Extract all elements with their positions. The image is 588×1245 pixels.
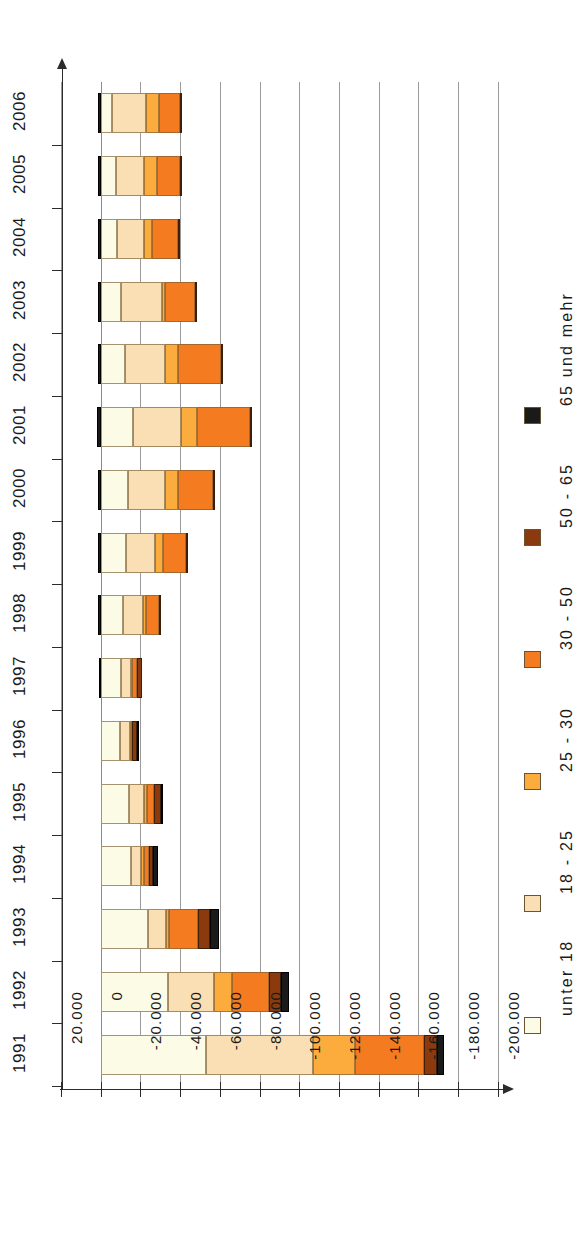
- bar-segment-2006-unter-18[interactable]: [101, 93, 112, 133]
- bar-segment-1993-65-und-mehr[interactable]: [210, 909, 219, 949]
- bar-segment-1995-50---65[interactable]: [154, 784, 161, 824]
- bar-segment-2000-unter-18[interactable]: [101, 470, 129, 510]
- bar-1995[interactable]: [0, 784, 588, 824]
- bar-segment-1999-25---30[interactable]: [155, 533, 163, 573]
- bar-1994[interactable]: [0, 846, 588, 886]
- bar-segment-2006-25---30[interactable]: [146, 93, 159, 133]
- bar-2003[interactable]: [0, 282, 588, 322]
- bar-segment-1999-18---25[interactable]: [126, 533, 156, 573]
- bar-segment-2002-30---50[interactable]: [178, 344, 221, 384]
- bar-segment-2004-18---25[interactable]: [117, 219, 145, 259]
- bar-1996[interactable]: [0, 721, 588, 761]
- bar-segment-2001-30---50[interactable]: [197, 407, 250, 447]
- bar-segment-2004-30---50[interactable]: [152, 219, 178, 259]
- bar-segment-2002-unter-18[interactable]: [101, 344, 125, 384]
- bar-segment-2000-30---50[interactable]: [178, 470, 213, 510]
- bar-segment-2003-65-und-mehr[interactable]: [98, 282, 101, 322]
- bar-1999[interactable]: [0, 533, 588, 573]
- bar-1991[interactable]: [0, 1035, 588, 1075]
- bar-segment-2000-25---30[interactable]: [165, 470, 178, 510]
- bar-segment-1997-18---25[interactable]: [121, 658, 132, 698]
- bar-2006[interactable]: [0, 93, 588, 133]
- bar-segment-2003-unter-18[interactable]: [101, 282, 121, 322]
- bar-segment-1994-18---25[interactable]: [131, 846, 141, 886]
- bar-segment-1997-65-und-mehr[interactable]: [99, 658, 101, 698]
- bar-segment-2006-50---65[interactable]: [180, 93, 182, 133]
- bar-segment-2006-65-und-mehr[interactable]: [98, 93, 101, 133]
- bar-2005[interactable]: [0, 156, 588, 196]
- bar-segment-1998-65-und-mehr[interactable]: [98, 595, 101, 635]
- bar-segment-2005-50---65[interactable]: [180, 156, 182, 196]
- bar-1998[interactable]: [0, 595, 588, 635]
- bar-segment-2004-unter-18[interactable]: [101, 219, 117, 259]
- bar-segment-2003-30---50[interactable]: [165, 282, 195, 322]
- bar-segment-1998-30---50[interactable]: [146, 595, 159, 635]
- bar-segment-1997-unter-18[interactable]: [101, 658, 121, 698]
- bar-2000[interactable]: [0, 470, 588, 510]
- bar-segment-2004-25---30[interactable]: [144, 219, 152, 259]
- bar-segment-2000-18---25[interactable]: [128, 470, 165, 510]
- bar-segment-1995-unter-18[interactable]: [101, 784, 130, 824]
- bar-segment-1994-unter-18[interactable]: [101, 846, 132, 886]
- bar-segment-2006-30---50[interactable]: [159, 93, 180, 133]
- bar-segment-2002-65-und-mehr[interactable]: [98, 344, 101, 384]
- bar-segment-2003-50---65[interactable]: [195, 282, 197, 322]
- bar-segment-2000-50---65[interactable]: [213, 470, 215, 510]
- bar-segment-1996-unter-18[interactable]: [101, 721, 120, 761]
- bar-segment-1993-18---25[interactable]: [148, 909, 166, 949]
- bar-segment-1999-30---50[interactable]: [163, 533, 186, 573]
- bar-segment-1991-18---25[interactable]: [206, 1035, 313, 1075]
- bar-segment-2001-18---25[interactable]: [133, 407, 181, 447]
- bar-segment-1995-30---50[interactable]: [147, 784, 154, 824]
- bar-segment-1997-50---65[interactable]: [137, 658, 142, 698]
- bar-segment-2001-50---65[interactable]: [250, 407, 252, 447]
- bar-segment-1998-50---65[interactable]: [159, 595, 161, 635]
- bar-segment-2001-unter-18[interactable]: [101, 407, 134, 447]
- bar-segment-2005-65-und-mehr[interactable]: [98, 156, 101, 196]
- bar-segment-2001-25---30[interactable]: [181, 407, 197, 447]
- legend-item-65-und-mehr[interactable]: 65 und mehr: [508, 400, 578, 430]
- category-axis-tick: [52, 710, 63, 711]
- bar-1993[interactable]: [0, 909, 588, 949]
- legend-item-25---30[interactable]: 25 - 30: [508, 766, 578, 796]
- legend-item-30---50[interactable]: 30 - 50: [508, 644, 578, 674]
- bar-2004[interactable]: [0, 219, 588, 259]
- bar-segment-1993-50---65[interactable]: [198, 909, 210, 949]
- bar-segment-1998-unter-18[interactable]: [101, 595, 123, 635]
- bar-segment-2005-25---30[interactable]: [144, 156, 157, 196]
- bar-segment-2005-30---50[interactable]: [157, 156, 180, 196]
- bar-segment-2000-65-und-mehr[interactable]: [98, 470, 101, 510]
- legend-item-unter-18[interactable]: unter 18: [508, 1010, 578, 1040]
- value-axis-tick: [180, 1082, 181, 1097]
- bar-segment-2006-18---25[interactable]: [112, 93, 147, 133]
- bar-segment-1996-65-und-mehr[interactable]: [137, 721, 139, 761]
- bar-segment-2002-18---25[interactable]: [125, 344, 166, 384]
- bar-segment-1996-18---25[interactable]: [120, 721, 131, 761]
- bar-1992[interactable]: [0, 972, 588, 1012]
- bar-2001[interactable]: [0, 407, 588, 447]
- legend-item-50---65[interactable]: 50 - 65: [508, 522, 578, 552]
- bar-segment-1993-unter-18[interactable]: [101, 909, 149, 949]
- bar-segment-1995-18---25[interactable]: [129, 784, 144, 824]
- category-axis-tick: [52, 459, 63, 460]
- legend-item-18---25[interactable]: 18 - 25: [508, 888, 578, 918]
- bar-segment-1994-65-und-mehr[interactable]: [153, 846, 158, 886]
- bar-segment-2005-unter-18[interactable]: [101, 156, 116, 196]
- bar-segment-2002-25---30[interactable]: [165, 344, 178, 384]
- bar-1997[interactable]: [0, 658, 588, 698]
- bar-2002[interactable]: [0, 344, 588, 384]
- bar-segment-1998-18---25[interactable]: [123, 595, 144, 635]
- value-axis-tick-label: 0: [108, 991, 125, 1101]
- bar-segment-1999-65-und-mehr[interactable]: [98, 533, 101, 573]
- bar-segment-1999-50---65[interactable]: [186, 533, 188, 573]
- bar-segment-1993-30---50[interactable]: [169, 909, 198, 949]
- bar-segment-2001-65-und-mehr[interactable]: [97, 407, 101, 447]
- bar-segment-2002-50---65[interactable]: [221, 344, 223, 384]
- bar-segment-2004-65-und-mehr[interactable]: [98, 219, 101, 259]
- bar-segment-1995-65-und-mehr[interactable]: [161, 784, 163, 824]
- bar-segment-2004-50---65[interactable]: [178, 219, 180, 259]
- bar-segment-2003-18---25[interactable]: [121, 282, 163, 322]
- legend-swatch-icon: [524, 651, 541, 668]
- bar-segment-2005-18---25[interactable]: [116, 156, 145, 196]
- bar-segment-1999-unter-18[interactable]: [101, 533, 126, 573]
